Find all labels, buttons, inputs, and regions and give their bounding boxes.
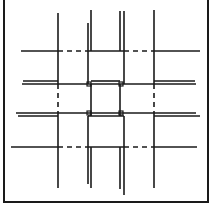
woven-grid-diagram <box>0 0 212 210</box>
horizontal-strands <box>11 51 200 147</box>
diagram-frame <box>3 0 209 202</box>
corner-knots <box>87 82 123 115</box>
vertical-strands <box>58 10 154 195</box>
